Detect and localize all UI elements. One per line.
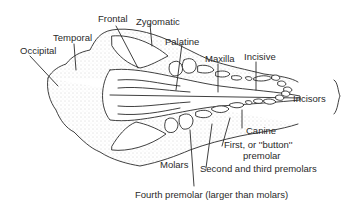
label-incisive: Incisive xyxy=(244,52,276,62)
label-incisors: Incisors xyxy=(293,94,326,104)
skull-diagram: Occipital Temporal Frontal Zygomatic Pal… xyxy=(0,0,344,207)
label-molars: Molars xyxy=(160,160,189,170)
label-first-premolar: First, or ''button'' xyxy=(224,140,293,150)
label-canine: Canine xyxy=(246,126,276,136)
label-occipital: Occipital xyxy=(20,46,56,56)
label-maxilla: Maxilla xyxy=(205,54,235,64)
label-palatine: Palatine xyxy=(165,37,199,47)
label-frontal: Frontal xyxy=(98,14,128,24)
label-first-premolar-line2: premolar xyxy=(243,151,281,161)
label-zygomatic: Zygomatic xyxy=(136,17,180,27)
label-second-third-premolars: Second and third premolars xyxy=(200,164,317,174)
label-temporal: Temporal xyxy=(53,33,92,43)
label-fourth-premolar: Fourth premolar (larger than molars) xyxy=(135,190,288,200)
